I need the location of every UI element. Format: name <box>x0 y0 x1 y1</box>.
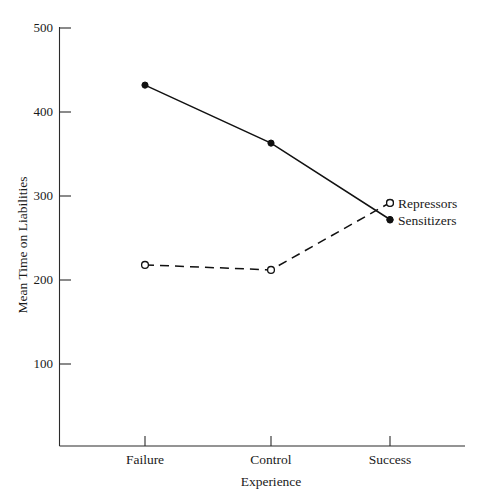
chart-canvas: 500 400 300 200 100 Mean Time on Liabili… <box>0 0 479 504</box>
data-point-repressors-control <box>268 267 275 274</box>
x-tick-label-control: Control <box>250 452 292 467</box>
x-tick-label-success: Success <box>369 452 412 467</box>
x-tick-label-failure: Failure <box>126 452 164 467</box>
y-tick-label-100: 100 <box>34 356 54 371</box>
legend-label-repressors: Repressors <box>398 196 457 211</box>
series-markers-sensitizers <box>142 82 393 223</box>
legend-marker-sensitizers-filled-circle-icon <box>387 217 393 223</box>
legend-marker-repressors-open-circle-icon <box>387 200 394 207</box>
y-tick-label-400: 400 <box>34 104 54 119</box>
data-point-sensitizers-failure <box>142 82 148 88</box>
series-line-repressors <box>145 203 390 270</box>
x-axis-title: Experience <box>241 474 302 489</box>
line-chart: 500 400 300 200 100 Mean Time on Liabili… <box>0 0 479 504</box>
legend-label-sensitizers: Sensitizers <box>398 213 457 228</box>
series-markers-repressors <box>142 199 394 273</box>
y-axis-title: Mean Time on Liabilities <box>15 177 30 314</box>
y-tick-label-200: 200 <box>34 272 54 287</box>
legend: Repressors Sensitizers <box>387 196 458 228</box>
data-point-sensitizers-control <box>268 140 274 146</box>
data-point-repressors-failure <box>142 262 149 269</box>
y-tick-label-300: 300 <box>34 188 54 203</box>
y-tick-label-500: 500 <box>34 20 54 35</box>
series-line-sensitizers <box>145 85 390 219</box>
